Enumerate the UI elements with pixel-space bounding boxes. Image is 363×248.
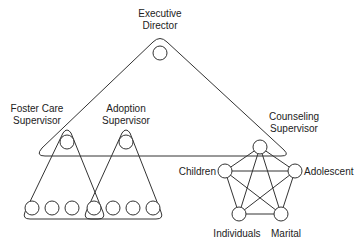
marital-label: Marital (271, 228, 301, 239)
counseling-label-line1: Counseling (269, 111, 319, 122)
foster-care-supervisor-node (60, 135, 74, 149)
executive-label-line2: Director (142, 20, 178, 31)
individuals-label: Individuals (213, 228, 260, 239)
adoption-label-line1: Adoption (106, 103, 145, 114)
counseling-supervisor-node (253, 140, 267, 154)
adolescent-node (288, 164, 302, 178)
children-label: Children (179, 166, 216, 177)
adolescent-label: Adolescent (304, 166, 354, 177)
worker-nodes (25, 201, 160, 215)
marital-node (274, 207, 288, 221)
adoption-label-line2: Supervisor (102, 115, 150, 126)
foster-label-line2: Supervisor (13, 115, 61, 126)
worker-node (126, 201, 140, 215)
worker-node (106, 201, 120, 215)
worker-node (146, 201, 160, 215)
worker-node (45, 201, 59, 215)
children-node (218, 164, 232, 178)
foster-label-line1: Foster Care (11, 103, 64, 114)
adoption-supervisor-node (119, 135, 133, 149)
counseling-label-line2: Supervisor (270, 123, 318, 134)
executive-director-node (153, 46, 167, 60)
worker-node (65, 201, 79, 215)
individuals-node (232, 207, 246, 221)
worker-node (25, 201, 39, 215)
org-diagram: Executive Director Foster Care Superviso… (0, 0, 363, 248)
shared-worker-node (87, 201, 101, 215)
counseling-network-edges (225, 147, 295, 214)
executive-label-line1: Executive (138, 8, 182, 19)
